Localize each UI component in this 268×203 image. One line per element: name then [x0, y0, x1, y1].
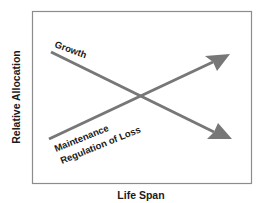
y-axis-label: Relative Allocation — [10, 50, 22, 144]
allocation-diagram: Growth Maintenance Regulation of Loss Re… — [0, 0, 268, 203]
x-axis-label: Life Span — [117, 189, 164, 201]
